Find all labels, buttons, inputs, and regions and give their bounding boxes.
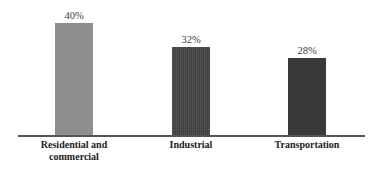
x-axis-line [18,135,365,137]
value-label-industrial: 32% [181,34,200,45]
category-label-line: Residential and [18,139,130,151]
plot-area: 40% 32% 28% [0,0,379,136]
bar-transportation[interactable] [288,58,326,136]
category-axis-labels: Residential and commercial Industrial Tr… [0,139,379,173]
value-label-transportation: 28% [297,45,316,56]
category-label-transportation: Transportation [251,139,363,151]
bar-group-industrial: 32% [172,47,210,136]
bar-residential-and-commercial[interactable] [55,23,93,136]
bar-group-residential-and-commercial: 40% [55,23,93,136]
bar-industrial[interactable] [172,47,210,136]
category-label-line: commercial [18,151,130,163]
category-label-line: Transportation [251,139,363,151]
bar-group-transportation: 28% [288,58,326,136]
value-label-residential-and-commercial: 40% [64,10,83,21]
category-label-industrial: Industrial [135,139,247,151]
bar-texture-icon [172,47,210,136]
bar-chart: 40% 32% 28% Residential and commercial I… [0,0,379,173]
category-label-residential-and-commercial: Residential and commercial [18,139,130,162]
category-label-line: Industrial [135,139,247,151]
